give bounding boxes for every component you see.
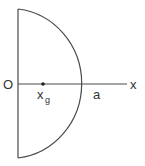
centroid-dot <box>41 82 45 86</box>
centroid-subscript: g <box>45 95 50 105</box>
semicircle-diagram: O x x g a <box>0 0 145 166</box>
x-axis-label: x <box>130 77 137 92</box>
centroid-label: x <box>37 87 44 102</box>
origin-label: O <box>3 77 13 92</box>
radius-label: a <box>93 87 101 102</box>
